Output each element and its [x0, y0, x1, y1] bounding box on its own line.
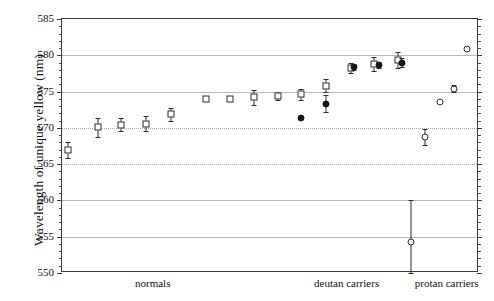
y-axis-minor-tick	[477, 34, 481, 35]
y-axis-minor-tick	[477, 41, 481, 42]
data-point	[398, 59, 405, 66]
y-axis-minor-tick	[59, 48, 62, 49]
y-axis-tick	[477, 237, 482, 238]
y-axis-tick	[57, 237, 62, 238]
y-axis-minor-tick	[477, 142, 481, 143]
error-bar-cap	[399, 67, 404, 68]
data-point	[202, 95, 209, 102]
y-axis-tick-label: 560	[26, 193, 54, 205]
y-axis-tick-label: 585	[26, 12, 54, 24]
y-axis-tick-label: 565	[26, 157, 54, 169]
figure: Wavelength of unique yellow (nm) 5855805…	[0, 0, 494, 301]
y-axis-minor-tick	[477, 70, 481, 71]
y-axis-minor-tick	[477, 179, 481, 180]
error-bar-cap	[119, 118, 124, 119]
y-axis-minor-tick	[59, 84, 62, 85]
data-point	[375, 61, 382, 68]
y-axis-minor-tick	[477, 157, 481, 158]
y-axis-minor-tick	[59, 77, 62, 78]
y-axis-minor-tick	[477, 77, 481, 78]
error-bar-cap	[372, 71, 377, 72]
data-point	[322, 82, 329, 89]
y-axis-minor-tick	[59, 186, 62, 187]
data-point	[142, 121, 149, 128]
y-axis-tick	[477, 164, 482, 165]
error-bar-cap	[422, 129, 427, 130]
y-axis-minor-tick	[477, 26, 481, 27]
data-point	[322, 100, 329, 107]
x-axis-group-label: deutan carriers	[314, 277, 379, 289]
plot-area	[61, 18, 478, 272]
y-axis-tick	[477, 19, 482, 20]
x-axis-group-label: protan carriers	[415, 277, 479, 289]
data-point	[421, 133, 428, 140]
y-axis-minor-tick	[59, 208, 62, 209]
data-point	[168, 111, 175, 118]
y-axis-tick	[477, 200, 482, 201]
y-axis-minor-tick	[59, 222, 62, 223]
y-axis-tick-label: 555	[26, 230, 54, 242]
y-axis-minor-tick	[477, 193, 481, 194]
y-axis-minor-tick	[477, 63, 481, 64]
y-axis-minor-tick	[59, 121, 62, 122]
y-axis-minor-tick	[59, 258, 62, 259]
y-axis-minor-tick	[59, 193, 62, 194]
error-bar-cap	[252, 90, 257, 91]
error-bar-cap	[143, 116, 148, 117]
y-axis-minor-tick	[477, 48, 481, 49]
y-axis-minor-tick	[59, 34, 62, 35]
y-axis-minor-tick	[59, 150, 62, 151]
gridline	[62, 55, 477, 56]
error-bar-cap	[396, 68, 401, 69]
error-bar-cap	[409, 273, 414, 274]
y-axis-minor-tick	[477, 222, 481, 223]
error-bar-cap	[95, 118, 100, 119]
gridline	[62, 164, 477, 165]
y-axis-minor-tick	[477, 84, 481, 85]
y-axis-minor-tick	[477, 266, 481, 267]
error-bar-cap	[95, 137, 100, 138]
y-axis-minor-tick	[477, 186, 481, 187]
y-axis-minor-tick	[477, 113, 481, 114]
error-bar-cap	[323, 95, 328, 96]
y-axis-minor-tick	[59, 41, 62, 42]
y-axis-minor-tick	[477, 229, 481, 230]
y-axis-minor-tick	[477, 99, 481, 100]
data-point	[118, 121, 125, 128]
error-bar-cap	[409, 200, 414, 201]
error-bar-cap	[323, 112, 328, 113]
error-bar-cap	[169, 108, 174, 109]
error-bar-cap	[396, 52, 401, 53]
y-axis-minor-tick	[59, 171, 62, 172]
data-point	[275, 92, 282, 99]
y-axis-tick	[57, 128, 62, 129]
y-axis-minor-tick	[477, 251, 481, 252]
y-axis-tick	[477, 55, 482, 56]
y-axis-minor-tick	[59, 135, 62, 136]
error-bar-cap	[348, 73, 353, 74]
data-point	[298, 91, 305, 98]
error-bar-cap	[276, 100, 281, 101]
y-axis-minor-tick	[59, 266, 62, 267]
y-axis-tick	[477, 273, 482, 274]
y-axis-minor-tick	[59, 251, 62, 252]
y-axis-tick-label: 570	[26, 121, 54, 133]
data-point	[464, 46, 471, 53]
error-bar-cap	[323, 92, 328, 93]
x-axis-group-label: normals	[135, 277, 170, 289]
y-axis-minor-tick	[59, 179, 62, 180]
y-axis-minor-tick	[59, 244, 62, 245]
y-axis-minor-tick	[59, 106, 62, 107]
y-axis-minor-tick	[59, 142, 62, 143]
error-bar-cap	[66, 158, 71, 159]
data-point	[65, 146, 72, 153]
y-axis-minor-tick	[477, 258, 481, 259]
y-axis-tick	[477, 128, 482, 129]
gridline	[62, 237, 477, 238]
y-axis-tick	[57, 164, 62, 165]
y-axis-minor-tick	[477, 208, 481, 209]
data-point	[297, 115, 304, 122]
y-axis-minor-tick	[59, 63, 62, 64]
data-point	[436, 99, 443, 106]
y-axis-minor-tick	[59, 113, 62, 114]
